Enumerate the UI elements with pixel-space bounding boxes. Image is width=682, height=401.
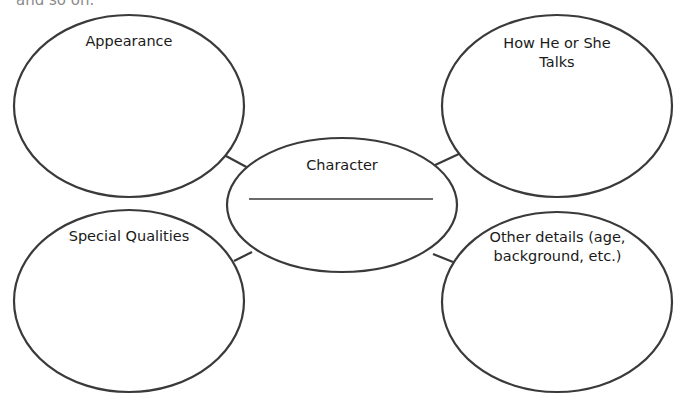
connector-top-right	[433, 153, 461, 166]
connector-bottom-right	[433, 254, 453, 262]
label-appearance: Appearance	[29, 32, 229, 51]
label-how-talks: How He or She Talks	[487, 34, 627, 72]
label-special-qualities: Special Qualities	[19, 227, 239, 246]
label-character: Character	[262, 156, 422, 175]
label-other-details: Other details (age, background, etc.)	[480, 228, 635, 266]
connector-bottom-left	[234, 252, 252, 261]
